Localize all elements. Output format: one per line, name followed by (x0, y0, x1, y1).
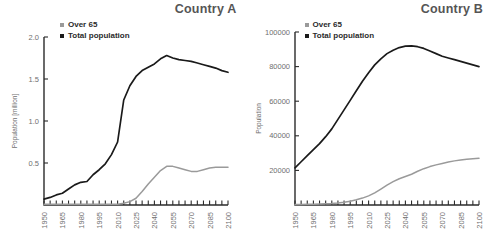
y-axis-tick-label: 2.0 (29, 33, 39, 42)
x-axis-tick-label: 2070 (438, 212, 447, 229)
y-axis-tick-label: 0.5 (29, 159, 39, 168)
y-axis-title: Population [million] (11, 94, 19, 149)
series-line-over-65 (44, 166, 228, 204)
series-line-over-65 (295, 158, 479, 204)
y-axis-tick-label: 100000 (264, 28, 289, 37)
y-axis-tick-label: 1.5 (29, 75, 39, 84)
x-axis-tick-label: 1995 (346, 212, 355, 229)
x-axis-tick-label: 2025 (383, 212, 392, 229)
y-axis-tick-label: 60000 (269, 97, 290, 106)
y-axis-title: Population (255, 103, 263, 134)
x-axis-tick-label: 2085 (206, 212, 215, 229)
x-axis-tick-label: 1980 (77, 212, 86, 229)
series-line-total-population (295, 46, 479, 168)
x-axis-tick-label: 2040 (150, 212, 159, 229)
x-axis-tick-label: 2085 (456, 212, 465, 229)
x-axis-tick-label: 2025 (132, 212, 141, 229)
x-axis-tick-label: 1965 (309, 212, 318, 229)
chart-panel-country-b: Country B Over 65 Total population 20000… (247, 0, 493, 251)
axis-spine (44, 37, 228, 205)
x-axis-tick-label: 2100 (475, 212, 484, 229)
x-axis-tick-label: 2010 (364, 212, 373, 229)
x-axis-tick-label: 2055 (169, 212, 178, 229)
x-axis-tick-label: 1965 (58, 212, 67, 229)
series-line-total-population (44, 55, 228, 199)
chart-svg-country-b: 2000040000600008000010000019501965198019… (247, 0, 493, 251)
x-axis-tick-label: 2040 (401, 212, 410, 229)
x-axis-tick-label: 2010 (114, 212, 123, 229)
x-axis-tick-label: 2055 (419, 212, 428, 229)
x-axis-tick-label: 2070 (187, 212, 196, 229)
chart-svg-country-a: 0.51.01.52.01950196519801995201020252040… (0, 0, 246, 251)
x-axis-tick-label: 1995 (95, 212, 104, 229)
population-projection-figure: Country A Over 65 Total population 0.51.… (0, 0, 493, 251)
x-axis-tick-label: 1950 (291, 212, 300, 229)
x-axis-tick-label: 1980 (327, 212, 336, 229)
y-axis-tick-label: 1.0 (29, 117, 39, 126)
chart-panel-country-a: Country A Over 65 Total population 0.51.… (0, 0, 247, 251)
y-axis-tick-label: 20000 (269, 166, 290, 175)
x-axis-tick-label: 1950 (40, 212, 49, 229)
x-axis-tick-label: 2100 (224, 212, 233, 229)
y-axis-tick-label: 80000 (269, 62, 290, 71)
y-axis-tick-label: 40000 (269, 131, 290, 140)
